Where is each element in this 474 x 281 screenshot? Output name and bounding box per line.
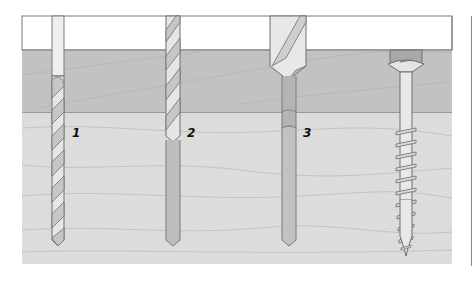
page-divider [471, 16, 472, 266]
clearance-hole [282, 76, 296, 128]
step-label-3: 3 [303, 126, 311, 140]
pilot-hole [282, 126, 296, 246]
top-board [22, 16, 452, 50]
step-label-1: 1 [72, 126, 80, 140]
bottom-board [22, 112, 452, 264]
step-2-clearance-drill [166, 16, 180, 246]
drilling-diagram [0, 0, 474, 281]
step-1-pilot-drill [52, 16, 64, 246]
middle-board [22, 50, 452, 112]
step-label-2: 2 [187, 126, 195, 140]
pilot-hole [166, 140, 180, 246]
board-layers [22, 16, 452, 264]
